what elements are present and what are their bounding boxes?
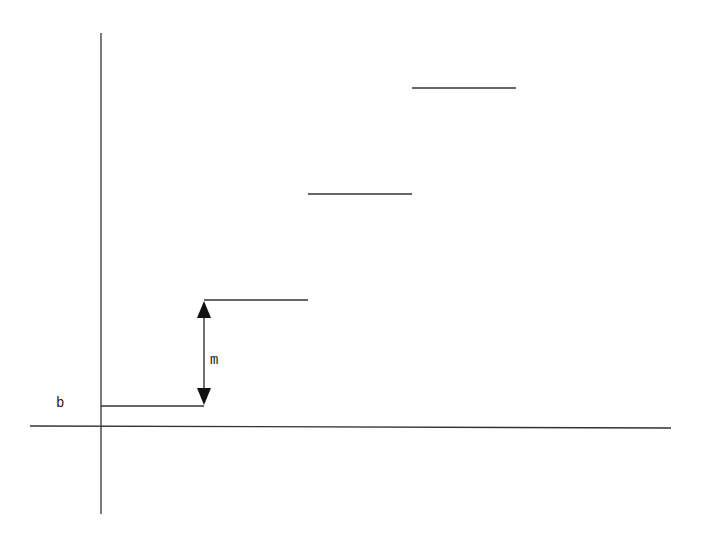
x-axis [30,426,671,428]
step-segments [101,88,516,406]
step-height-arrow [197,301,211,405]
step-height-label: m [210,352,218,368]
arrowhead-down-icon [197,388,211,405]
step-function-diagram: b m [0,0,706,540]
arrowhead-up-icon [197,301,211,318]
intercept-label: b [56,395,64,411]
